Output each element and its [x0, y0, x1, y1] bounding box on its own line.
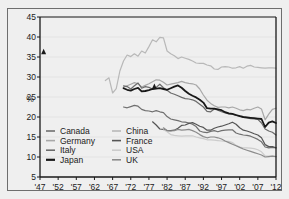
legend-label-germany: Germany: [60, 136, 96, 146]
x-tick-label: '97: [216, 182, 227, 192]
marker-japan-1978: [152, 84, 157, 90]
x-tick-label: '92: [198, 182, 209, 192]
x-tick-label: '77: [143, 182, 154, 192]
x-tick-label: '52: [53, 182, 64, 192]
chart-canvas: 51015202530354045 '47'52'57'62'67'72'77'…: [0, 0, 289, 199]
x-tick-label: '57: [71, 182, 82, 192]
legend-label-usa: USA: [126, 145, 144, 155]
chart-figure: 51015202530354045 '47'52'57'62'67'72'77'…: [0, 0, 289, 199]
y-tick-label: 10: [27, 152, 37, 162]
y-tick-label: 30: [27, 72, 37, 82]
x-tick-label: '02: [234, 182, 245, 192]
legend-label-canada: Canada: [60, 126, 90, 136]
x-tick-label: '72: [125, 182, 136, 192]
y-tick-label: 35: [27, 52, 37, 62]
x-tick-label: '12: [270, 182, 281, 192]
y-tick-label: 5: [31, 172, 36, 182]
x-tick-label: '07: [252, 182, 263, 192]
x-tick-label: '62: [89, 182, 100, 192]
legend-label-france: France: [126, 136, 153, 146]
series-line-japan: [124, 85, 276, 127]
chart-legend: CanadaGermanyItalyJapanChinaFranceUSAUK: [46, 126, 153, 165]
legend-label-china: China: [126, 126, 148, 136]
x-tick-labels: '47'52'57'62'67'72'77'82'87'92'97'02'07'…: [34, 182, 281, 192]
x-tick-label: '67: [107, 182, 118, 192]
x-tick-label: '87: [180, 182, 191, 192]
y-tick-label: 40: [27, 32, 37, 42]
series-line-usa: [163, 130, 276, 157]
legend-label-japan: Japan: [60, 155, 83, 165]
x-tick-label: '82: [162, 182, 173, 192]
legend-label-italy: Italy: [60, 145, 76, 155]
y-axis-label: %: [26, 94, 34, 104]
y-tick-label: 45: [27, 12, 37, 22]
x-tick-label: '47: [34, 182, 45, 192]
y-tick-label: 15: [27, 132, 37, 142]
series-line-uk: [163, 128, 276, 157]
legend-label-uk: UK: [126, 155, 138, 165]
marker-canada-1948: [41, 49, 46, 55]
y-tick-label: 20: [27, 112, 37, 122]
